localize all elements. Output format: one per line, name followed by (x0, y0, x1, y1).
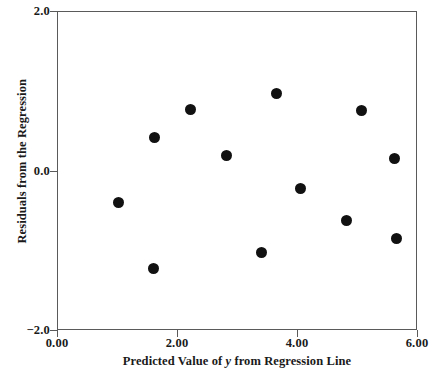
y-axis-title: Residuals from the Regression (16, 61, 29, 261)
x-axis-tick-label: 2.00 (142, 337, 212, 350)
x-axis-tick-label: 4.00 (262, 337, 332, 350)
plot-frame (57, 11, 417, 330)
y-axis-tick-label: 2.0 (4, 5, 50, 18)
x-axis-title-suffix: from Regression Line (231, 354, 351, 368)
x-axis-tick-label: 0.00 (22, 337, 92, 350)
x-axis-title: Predicted Value of y from Regression Lin… (57, 355, 417, 368)
x-axis-title-prefix: Predicted Value of (123, 354, 226, 368)
residual-scatter-plot: 2.00.0−2.0 0.002.004.006.00 Predicted Va… (0, 0, 438, 375)
y-axis-tick (50, 330, 57, 331)
y-axis-tick (50, 171, 57, 172)
x-axis-tick-label: 6.00 (382, 337, 438, 350)
y-axis-tick (50, 11, 57, 12)
y-axis-tick-label: −2.0 (4, 324, 50, 337)
